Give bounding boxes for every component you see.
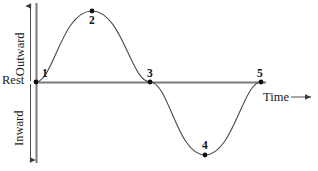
point-marker-5 (259, 80, 264, 85)
point-label-3: 3 (147, 68, 153, 80)
axis-label-time: Time (263, 91, 289, 104)
axis-label-outward: Outward (14, 23, 27, 85)
point-marker-4 (203, 153, 208, 158)
sine-wave-diagram (0, 0, 318, 171)
point-label-5: 5 (257, 68, 263, 80)
point-label-4: 4 (202, 140, 208, 152)
point-marker-2 (90, 9, 95, 14)
diagram-canvas: Rest Outward Inward Time 1 2 3 4 5 (0, 0, 318, 171)
axis-label-inward: Inward (13, 98, 26, 158)
point-label-2: 2 (89, 15, 95, 27)
point-label-1: 1 (42, 68, 48, 80)
point-marker-3 (148, 80, 153, 85)
point-marker-1 (34, 80, 39, 85)
